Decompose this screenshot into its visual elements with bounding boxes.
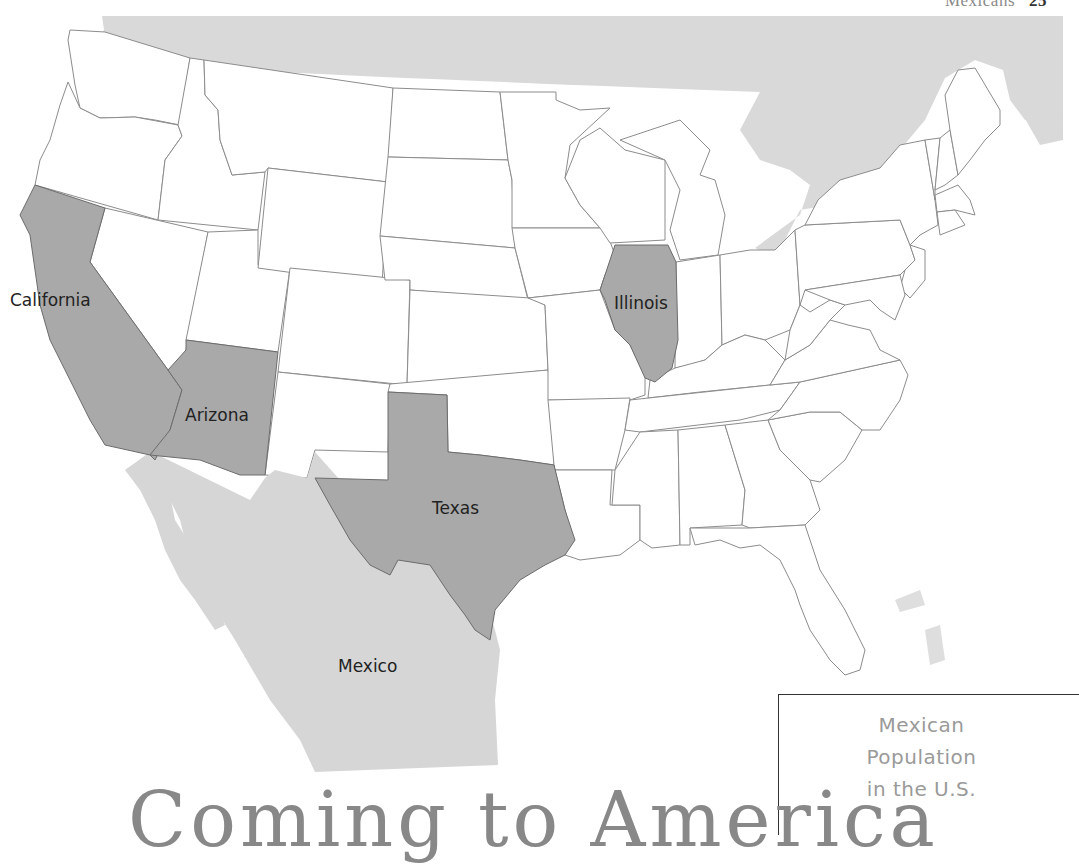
label-arizona: Arizona	[185, 405, 249, 425]
state-montana	[204, 60, 393, 182]
state-connecticut	[937, 210, 965, 235]
state-new-mexico	[265, 372, 390, 478]
state-florida	[690, 525, 865, 675]
bahamas-islands	[895, 590, 925, 612]
state-colorado	[278, 268, 410, 385]
state-arkansas	[548, 398, 630, 470]
state-south-dakota	[380, 157, 515, 248]
label-california: California	[10, 290, 91, 310]
chapter-heading: Coming to America	[128, 782, 939, 858]
label-texas: Texas	[432, 498, 479, 518]
nova-scotia-region	[1030, 115, 1060, 140]
state-kansas	[407, 290, 548, 385]
state-north-dakota	[388, 88, 508, 160]
state-wyoming	[258, 168, 388, 285]
state-iowa	[512, 228, 615, 298]
cuba-island	[925, 625, 945, 665]
legend-title-line2: Population	[779, 741, 1064, 773]
label-mexico: Mexico	[338, 656, 397, 676]
legend-title-line1: Mexican	[779, 709, 1064, 741]
label-illinois: Illinois	[614, 293, 668, 313]
